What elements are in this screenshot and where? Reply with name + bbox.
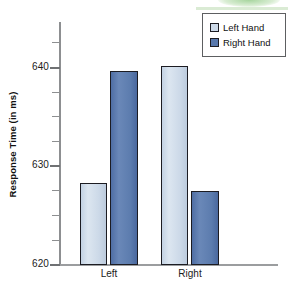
- y-tick-minor-6425: [52, 42, 60, 43]
- y-axis-line: [59, 22, 61, 265]
- legend-swatch-icon-left-hand: [210, 23, 219, 32]
- y-tick-630: [50, 165, 60, 167]
- y-tick-minor-6225: [52, 240, 60, 241]
- chart-legend: Left Hand Right Hand: [202, 13, 286, 57]
- bar-left-lefthand: [80, 183, 107, 265]
- y-tick-label-620: 620: [9, 258, 49, 269]
- y-tick-minor-635: [52, 116, 60, 117]
- legend-label-left-hand: Left Hand: [223, 22, 264, 33]
- y-tick-620: [50, 264, 60, 266]
- x-tick-label-left: Left: [74, 268, 144, 279]
- bar-right-lefthand: [161, 66, 188, 265]
- legend-item-right-hand: Right Hand: [210, 35, 280, 50]
- legend-label-right-hand: Right Hand: [223, 37, 271, 48]
- legend-swatch-icon-right-hand: [210, 38, 219, 47]
- y-tick-640: [50, 67, 60, 69]
- bar-left-righthand: [110, 71, 138, 265]
- legend-item-left-hand: Left Hand: [210, 20, 280, 35]
- bar-right-righthand: [191, 191, 219, 265]
- x-tick-label-right: Right: [155, 268, 225, 279]
- y-tick-minor-6275: [52, 190, 60, 191]
- y-axis-title: Response Time (in ms): [7, 60, 18, 230]
- chart-screenshot: 640 630 620 Response Time (in ms) Left R…: [0, 0, 288, 281]
- y-tick-minor-6375: [52, 92, 60, 93]
- y-tick-minor-6325: [52, 141, 60, 142]
- y-tick-minor-625: [52, 215, 60, 216]
